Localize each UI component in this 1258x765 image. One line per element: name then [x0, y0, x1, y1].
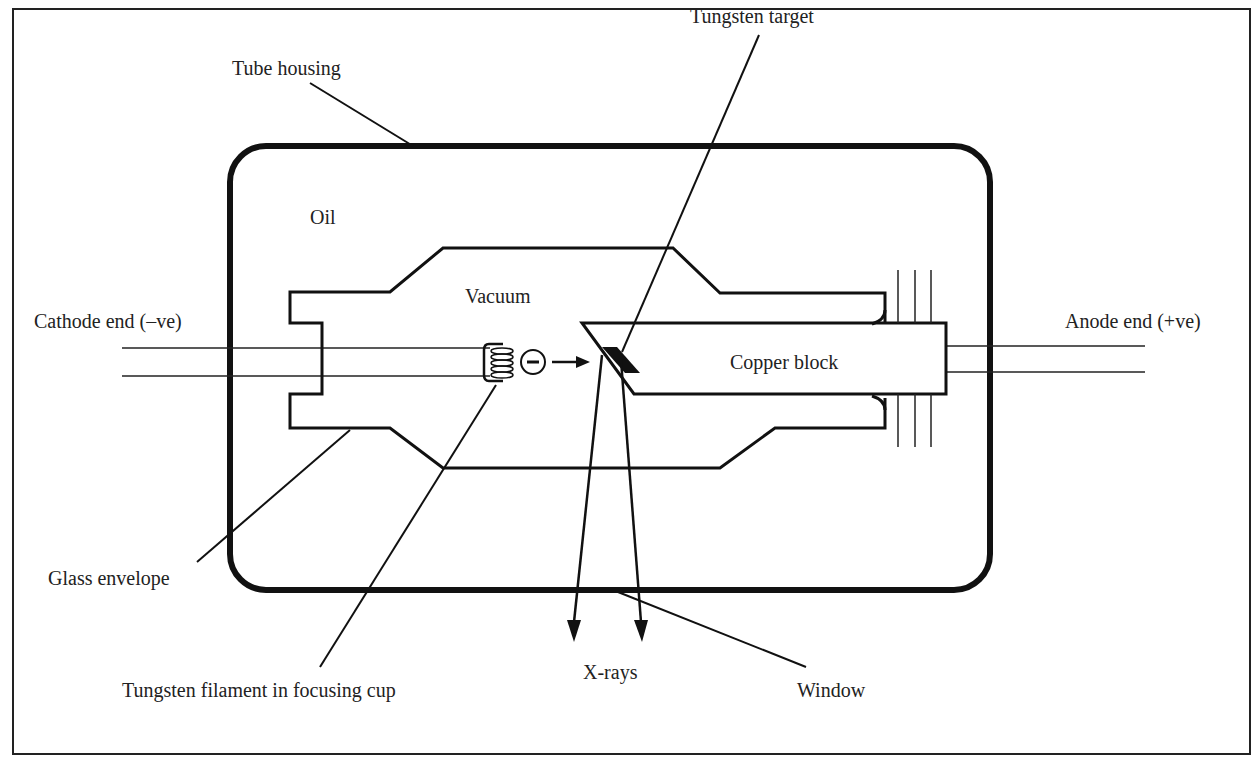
tube-housing — [230, 146, 990, 590]
label-tungsten-target: Tungsten target — [690, 6, 814, 26]
cooling-fins — [898, 270, 931, 447]
label-window: Window — [797, 680, 865, 700]
label-copper-block: Copper block — [730, 352, 838, 372]
label-vacuum: Vacuum — [465, 286, 531, 306]
label-glass-envelope: Glass envelope — [48, 568, 170, 588]
leader-lines — [197, 35, 806, 667]
label-cathode-end: Cathode end (–ve) — [34, 311, 182, 331]
label-tube-housing: Tube housing — [232, 58, 341, 78]
label-tungsten-filament: Tungsten filament in focusing cup — [122, 680, 396, 700]
label-anode-end: Anode end (+ve) — [1065, 311, 1201, 331]
xray-tube-diagram — [0, 0, 1258, 765]
diagram-frame — [13, 9, 1250, 754]
label-oil: Oil — [310, 207, 336, 227]
label-x-rays: X-rays — [583, 662, 637, 682]
